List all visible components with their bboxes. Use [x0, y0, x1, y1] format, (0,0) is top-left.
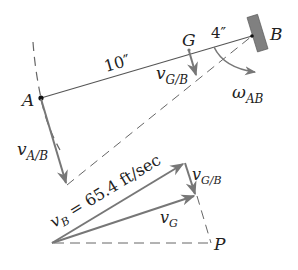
label-omega-ab: ωAB: [232, 82, 264, 106]
omega-ab-arc-arrow: [214, 47, 255, 72]
label-v-b: vB = 65.4 ft/sec: [46, 150, 165, 234]
dashed-line-to-p: [197, 196, 211, 243]
fixed-support-b: [247, 14, 268, 52]
label-v-g: vG: [160, 208, 178, 230]
label-v-g-b: vG/B: [156, 63, 188, 87]
vector-v-g-b: [189, 51, 196, 75]
label-g: G: [182, 30, 196, 50]
label-a: A: [20, 90, 34, 110]
label-v-g-b-triangle: vG/B: [192, 165, 222, 187]
label-p: P: [213, 234, 226, 254]
label-v-a-b: vA/B: [17, 139, 48, 163]
dimension-gb: 4″: [211, 24, 227, 42]
vector-v-a-b: [41, 99, 66, 183]
label-b: B: [269, 24, 283, 44]
link-ab: [41, 36, 252, 98]
kinematics-diagram: A B G P 10″ 4″ vA/B vG/B ωAB vB = 65.4 f…: [0, 0, 298, 270]
